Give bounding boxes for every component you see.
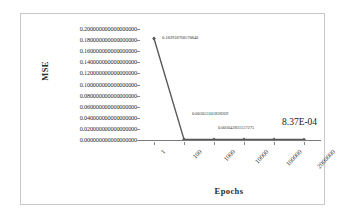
x-axis-tick-mark (154, 142, 155, 145)
x-axis-tick-label: 2000000 (315, 148, 336, 170)
y-axis-tick-labels: 0.2000000000000000000.180000000000000000… (39, 26, 137, 140)
x-axis-tick-label: 100000 (284, 148, 303, 167)
x-axis-line (139, 140, 321, 141)
data-point-label: 0.182918768570840 (162, 35, 198, 40)
y-axis-tick-label: 0.200000000000000000 (39, 26, 137, 32)
data-point-label: 0.001053101828369 (192, 111, 228, 116)
x-axis-tick-label: 100 (191, 148, 203, 160)
plot-area: 0.1829187685708400.0010531018283690.0010… (139, 29, 319, 140)
y-axis-tick-label: 0.000000000000000000 (39, 137, 137, 143)
x-axis-tick-mark (214, 142, 215, 145)
x-axis-tick-label: 10000 (253, 148, 269, 165)
x-axis-tick-mark (274, 142, 275, 145)
x-axis-title: Epochs (139, 186, 319, 196)
x-axis-tick-mark (244, 142, 245, 145)
y-axis-tick-label: 0.120000000000000000 (39, 70, 137, 76)
data-point-marker[interactable] (152, 37, 156, 41)
y-axis-tick-label: 0.040000000000000000 (39, 115, 137, 121)
y-axis-tick-label: 0.020000000000000000 (39, 126, 137, 132)
data-point-label: 8.37E-04 (282, 120, 317, 125)
chart-container: MSE 0.2000000000000000000.18000000000000… (20, 13, 325, 205)
y-axis-tick-label: 0.140000000000000000 (39, 59, 137, 65)
y-axis-tick-label: 0.180000000000000000 (39, 37, 137, 43)
data-point-label: 0.001042831157275 (218, 125, 254, 130)
y-axis-tick-label: 0.060000000000000000 (39, 104, 137, 110)
y-axis-tick-label: 0.100000000000000000 (39, 82, 137, 88)
x-axis-tick-label: 1 (159, 148, 166, 155)
y-axis-tick-label: 0.160000000000000000 (39, 48, 137, 54)
x-axis-tick-mark (304, 142, 305, 145)
x-axis-tick-mark (184, 142, 185, 145)
x-axis-tick-labels: 11001000100001000002000000 (139, 142, 334, 176)
y-axis-tick-label: 0.080000000000000000 (39, 93, 137, 99)
x-axis-tick-label: 1000 (222, 148, 236, 162)
